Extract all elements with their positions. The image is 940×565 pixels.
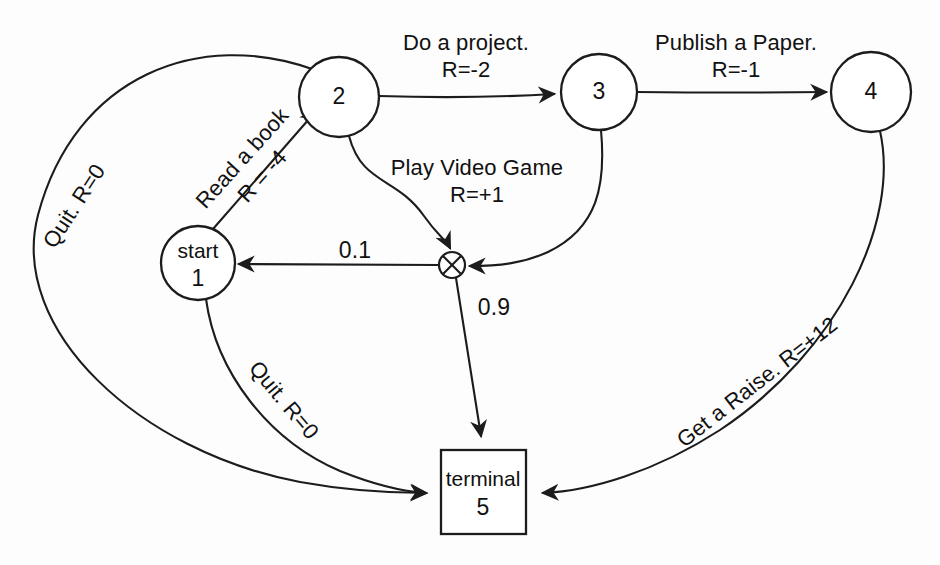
edge-label-play-video-game-reward: R=+1 [391, 181, 563, 208]
edge-label-probability-low: 0.1 [339, 237, 371, 264]
diagram-canvas: start 1 2 3 4 terminal 5 [0, 0, 940, 565]
edge-4-to-terminal [543, 131, 884, 493]
node-terminal-label: terminal [446, 467, 521, 490]
edge-label-play-video-game-action: Play Video Game [391, 154, 563, 181]
chance-junction-node[interactable] [439, 252, 465, 278]
node-terminal-number: 5 [477, 494, 490, 520]
edge-junction-to-start [239, 264, 439, 265]
edge-label-do-a-project-reward: R=-2 [403, 56, 529, 83]
node-start-label: start [178, 239, 219, 262]
edge-label-probability-high: 0.9 [478, 294, 510, 321]
node-4-number: 4 [865, 78, 878, 104]
node-terminal[interactable]: terminal 5 [441, 450, 526, 534]
node-terminal-square[interactable] [441, 450, 526, 534]
mdp-graph: start 1 2 3 4 terminal 5 [0, 0, 940, 565]
node-4[interactable]: 4 [831, 52, 911, 132]
node-start-number: 1 [192, 265, 205, 291]
edge-label-publish-a-paper-action: Publish a Paper. [655, 29, 817, 56]
edge-2-to-3 [379, 94, 554, 97]
node-start[interactable]: start 1 [161, 226, 235, 300]
edge-label-publish-a-paper: Publish a Paper. R=-1 [655, 29, 817, 83]
node-2-number: 2 [333, 83, 346, 109]
node-2[interactable]: 2 [299, 57, 379, 137]
node-3[interactable]: 3 [561, 54, 637, 130]
edge-3-to-4 [637, 92, 826, 93]
edge-label-play-video-game: Play Video Game R=+1 [391, 154, 563, 208]
edge-label-do-a-project: Do a project. R=-2 [403, 29, 529, 83]
edge-label-do-a-project-action: Do a project. [403, 29, 529, 56]
edge-start-to-terminal [206, 299, 426, 493]
node-3-number: 3 [593, 78, 606, 104]
edge-label-publish-a-paper-reward: R=-1 [655, 56, 817, 83]
